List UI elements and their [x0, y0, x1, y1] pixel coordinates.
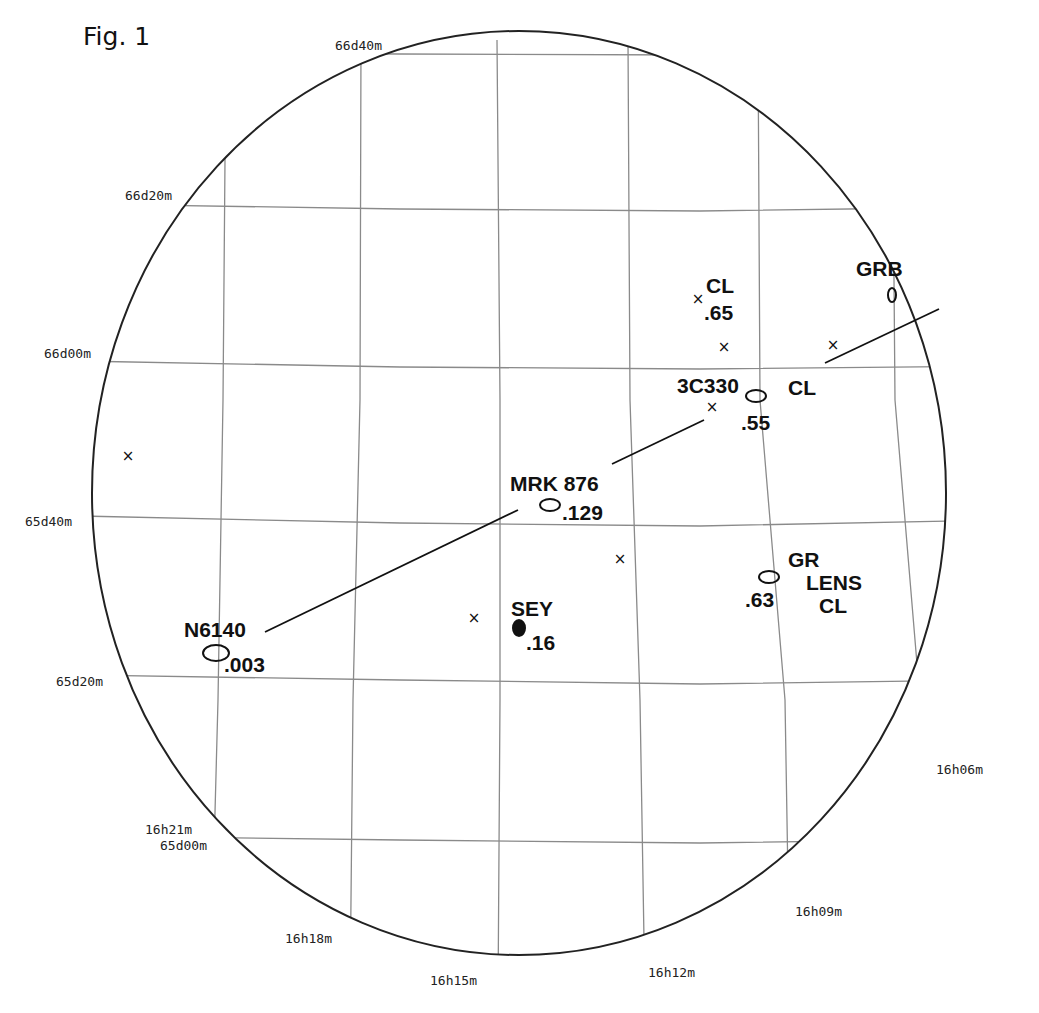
- dec-label: 66d20m: [125, 188, 172, 203]
- cross-markers: × × × × × × ×: [122, 290, 840, 627]
- grb-marker: [888, 288, 896, 302]
- grb-label: GRB: [856, 257, 903, 280]
- ra-label: 16h12m: [648, 965, 695, 980]
- cross-icon: ×: [468, 609, 481, 627]
- dec-label: 65d20m: [56, 674, 103, 689]
- ra-label: 16h15m: [430, 973, 477, 988]
- cross-icon: ×: [122, 447, 135, 465]
- gr-lens-marker: [759, 571, 779, 583]
- dec-label: 66d40m: [335, 38, 382, 53]
- 3c330-redshift: .55: [741, 411, 771, 434]
- mrk876-label: MRK 876: [510, 472, 599, 495]
- cross-icon: ×: [718, 338, 731, 356]
- cl-label: CL: [819, 594, 847, 617]
- ra-label: 16h21m: [145, 822, 192, 837]
- ra-label: 16h18m: [285, 931, 332, 946]
- 3c330-marker: [746, 390, 766, 402]
- cl-label: CL: [706, 274, 734, 297]
- n6140-label: N6140: [184, 618, 246, 641]
- mrk876-marker: [540, 499, 560, 511]
- source-labels: GRB CL .65 3C330 .55 CL MRK 876 .129 GR …: [184, 257, 903, 676]
- ra-label: 16h09m: [795, 904, 842, 919]
- cl-label: CL: [788, 376, 816, 399]
- cross-icon: ×: [614, 550, 627, 568]
- coordinate-grid: [80, 40, 1000, 1000]
- sey-label: SEY: [511, 597, 553, 620]
- mrk876-redshift: .129: [562, 501, 603, 524]
- cl-redshift: .65: [704, 301, 734, 324]
- dec-label: 65d00m: [160, 838, 207, 853]
- cross-icon: ×: [692, 290, 705, 308]
- cross-icon: ×: [827, 336, 840, 354]
- gr-lens-redshift: .63: [745, 588, 774, 611]
- ra-label: 16h06m: [936, 762, 983, 777]
- dec-label: 66d00m: [44, 346, 91, 361]
- dec-label: 65d40m: [25, 514, 72, 529]
- 3c330-label: 3C330: [677, 374, 739, 397]
- n6140-redshift: .003: [224, 653, 265, 676]
- sey-redshift: .16: [526, 631, 555, 654]
- lens-label: LENS: [806, 571, 862, 594]
- cross-icon: ×: [706, 398, 719, 416]
- gr-label: GR: [788, 548, 820, 571]
- sky-map: 66d40m 66d20m 66d00m 65d40m 65d20m 16h21…: [0, 0, 1039, 1013]
- sey-marker: [513, 620, 525, 636]
